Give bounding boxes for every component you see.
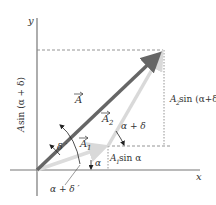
label-a2-sin: A 2 sin (α+δ) — [169, 94, 216, 106]
label-a1-sin: A 1 sin α — [109, 153, 141, 165]
vector-a2 — [108, 54, 161, 146]
angle-label-alpha-plus-delta: α + δ — [121, 121, 146, 131]
angle-arc-alpha-plus-delta — [116, 131, 124, 145]
y-axis-label: y — [27, 15, 34, 26]
label-a-sin-prefix: A — [16, 125, 26, 133]
label-a-sin-text: sin (α + δ) — [16, 77, 26, 125]
label-vector-a2: A 2 — [101, 111, 114, 127]
x-axis-label: x — [196, 171, 202, 182]
angle-label-alpha: α — [95, 158, 101, 168]
label-a1-sub: 1 — [87, 144, 91, 152]
label-a1-sin-text: sin α — [119, 153, 141, 163]
label-vector-a1: A 1 — [79, 136, 91, 152]
phasor-diagram: y x A A 2 A 1 δ ′ α α + δ α + δ ′ A sin … — [0, 0, 216, 205]
label-a2-sin-text: sin (α+δ) — [179, 94, 216, 104]
label-a-sin-alpha-plus-delta: A sin (α + δ) — [16, 77, 26, 133]
label-vector-a: A — [74, 92, 83, 105]
angle-label-alpha-plus-delta-prime: α + δ ′ — [50, 184, 80, 194]
angle-pointer-alpha-plus-delta-prime — [65, 165, 80, 185]
angle-label-delta-prime: δ ′ — [57, 142, 67, 152]
label-a2-sub: 2 — [108, 119, 114, 127]
